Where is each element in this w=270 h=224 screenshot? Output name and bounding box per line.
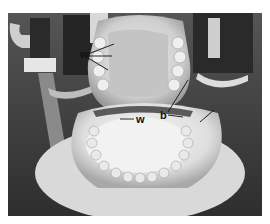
annotation-label-w-upper: w xyxy=(80,49,89,60)
annotation-label-b: b xyxy=(160,110,167,121)
annotation-label-w-lower: w xyxy=(136,114,145,125)
annotation-arrows xyxy=(0,0,270,224)
